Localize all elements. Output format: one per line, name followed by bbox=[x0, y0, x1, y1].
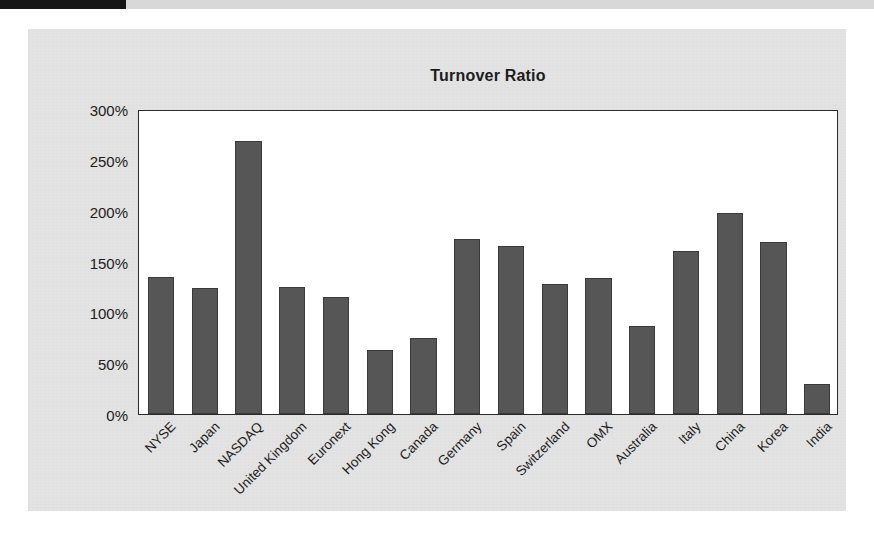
x-axis-tick-label: Spain bbox=[493, 419, 528, 454]
plot-area bbox=[138, 110, 838, 415]
scan-edge-band bbox=[0, 0, 874, 9]
bar bbox=[323, 297, 349, 414]
x-axis: NYSEJapanNASDAQUnited KingdomEuronextHon… bbox=[138, 419, 838, 533]
bar bbox=[279, 287, 305, 414]
x-axis-tick-label: NYSE bbox=[142, 419, 179, 456]
y-axis-tick-label: 200% bbox=[56, 203, 128, 220]
y-axis-tick-label: 300% bbox=[56, 102, 128, 119]
figure-panel: Turnover Ratio 0%50%100%150%200%250%300%… bbox=[28, 29, 846, 511]
bar bbox=[542, 284, 568, 414]
bar bbox=[192, 288, 218, 414]
y-axis-tick-label: 150% bbox=[56, 254, 128, 271]
x-axis-tick-label: Germany bbox=[435, 419, 485, 469]
bar bbox=[760, 242, 786, 414]
bar bbox=[498, 246, 524, 414]
x-axis-tick-label: Australia bbox=[612, 419, 660, 467]
x-axis-tick-label: India bbox=[803, 419, 834, 450]
y-axis-tick-label: 50% bbox=[56, 356, 128, 373]
bar bbox=[629, 326, 655, 414]
x-axis-tick-label: China bbox=[712, 419, 748, 455]
x-axis-tick-label: OMX bbox=[584, 419, 616, 451]
scan-edge-dark-block bbox=[0, 0, 126, 9]
bar bbox=[585, 278, 611, 414]
x-axis-tick-label: Japan bbox=[186, 419, 223, 456]
bar bbox=[454, 239, 480, 414]
chart-title: Turnover Ratio bbox=[138, 67, 838, 85]
x-axis-tick-label: Canada bbox=[397, 419, 441, 463]
bar bbox=[804, 384, 830, 415]
y-axis-tick-label: 100% bbox=[56, 305, 128, 322]
bars-layer bbox=[139, 111, 837, 414]
y-axis-tick-label: 0% bbox=[56, 407, 128, 424]
bar bbox=[410, 338, 436, 414]
bar bbox=[717, 213, 743, 414]
x-axis-tick-label: Korea bbox=[755, 419, 791, 455]
bar bbox=[235, 141, 261, 414]
bar bbox=[148, 277, 174, 414]
x-axis-tick-label: Italy bbox=[675, 419, 703, 447]
bar bbox=[367, 350, 393, 414]
y-axis-tick-label: 250% bbox=[56, 152, 128, 169]
bar bbox=[673, 251, 699, 414]
